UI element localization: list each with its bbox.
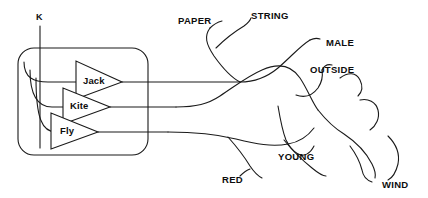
route-hook-upper-right [340, 74, 362, 96]
outer-label-male: MALE [326, 38, 354, 48]
route-kite-main [176, 66, 318, 110]
route-fly-main [168, 128, 314, 145]
route-kite-to-wind [318, 110, 375, 178]
feeder-curve-kite [30, 70, 66, 107]
route-wind-strand [350, 146, 372, 182]
route-string-branch [216, 18, 251, 48]
route-wind-hook [388, 136, 399, 180]
node-label-kite: Kite [70, 101, 88, 111]
diagram-canvas: K Jack Kite Fly PAPER STRING MALE OUTSID… [0, 0, 428, 198]
feeder-curve-jack [24, 62, 78, 82]
label-k: K [36, 13, 43, 22]
node-label-fly: Fly [60, 126, 74, 136]
route-hook-right-mid [360, 99, 379, 130]
node-label-jack: Jack [83, 76, 105, 86]
outer-label-wind: WIND [382, 180, 409, 190]
outer-label-paper: PAPER [178, 16, 212, 26]
route-jack-to-paper [207, 28, 240, 82]
outer-label-outside: OUTSIDE [310, 65, 354, 75]
route-young-branch [278, 106, 298, 154]
outer-label-string: STRING [251, 11, 289, 21]
route-paper-tail [210, 21, 222, 28]
diagram-vector-layer [0, 0, 428, 198]
outer-label-young: YOUNG [278, 152, 314, 162]
route-male-tail [310, 38, 320, 40]
outer-label-red: RED [222, 175, 243, 185]
